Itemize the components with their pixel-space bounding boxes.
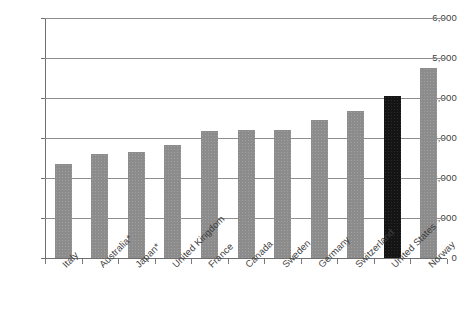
gridline	[45, 58, 447, 59]
x-axis-tick-mark	[155, 259, 156, 264]
x-axis-tick-mark	[82, 259, 83, 264]
x-axis-tick-mark	[301, 259, 302, 264]
bar	[347, 111, 364, 258]
gridline	[45, 18, 447, 19]
bar	[238, 130, 255, 258]
x-axis-tick-mark	[45, 259, 46, 264]
x-axis-tick-mark	[118, 259, 119, 264]
x-axis-tick-mark	[337, 259, 338, 264]
x-axis-tick-mark	[374, 259, 375, 264]
bar	[311, 120, 328, 258]
x-axis-tick-mark	[410, 259, 411, 264]
bar	[55, 164, 72, 258]
bar	[164, 145, 181, 258]
x-axis-tick-mark	[447, 259, 448, 264]
x-axis-tick-mark	[264, 259, 265, 264]
x-axis-tick-mark	[228, 259, 229, 264]
plot-area	[45, 18, 447, 258]
bar	[274, 130, 291, 258]
bar-chart: 6,0005,0004,0003,0002,0001,0000 ItalyAus…	[0, 0, 457, 330]
bar	[91, 154, 108, 258]
x-axis-tick-mark	[191, 259, 192, 264]
